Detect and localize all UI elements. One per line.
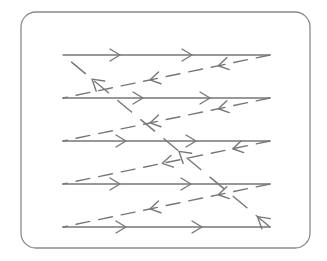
arrowhead-icon — [218, 101, 229, 113]
raster-scan-diagram — [0, 0, 327, 261]
arrowhead-icon — [150, 72, 161, 84]
display-frame — [21, 12, 310, 248]
arrowhead-icon — [150, 201, 161, 213]
retrace-line — [63, 141, 270, 184]
retrace-line — [63, 98, 270, 141]
retrace-line — [63, 55, 270, 98]
arrowhead-icon — [150, 115, 161, 127]
arrowhead-icon — [218, 58, 229, 70]
retrace-line — [63, 184, 270, 227]
